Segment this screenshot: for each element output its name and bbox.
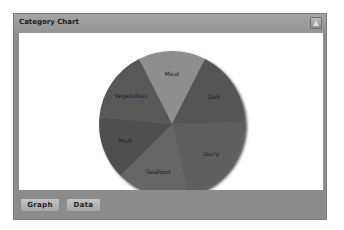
pie-chart: MeatDeliDairySeafoodFruitVegetables [19, 33, 323, 190]
slice-label: Fruit [119, 137, 133, 144]
slice-label: Vegetables [114, 92, 147, 100]
category-chart-panel: Category Chart MeatDeliDairySeafoodFruit… [13, 13, 327, 220]
slice-label: Dairy [203, 150, 219, 158]
data-button[interactable]: Data [66, 198, 101, 212]
slice-label: Seafood [146, 168, 171, 175]
triangle-up-icon [313, 20, 319, 26]
slice-label: Meat [165, 70, 181, 77]
slice-label: Deli [208, 93, 220, 100]
panel-title: Category Chart [19, 18, 79, 26]
graph-button[interactable]: Graph [20, 198, 60, 212]
chart-area: MeatDeliDairySeafoodFruitVegetables [19, 33, 323, 190]
panel-titlebar: Category Chart [14, 14, 326, 33]
collapse-button[interactable] [310, 17, 322, 29]
